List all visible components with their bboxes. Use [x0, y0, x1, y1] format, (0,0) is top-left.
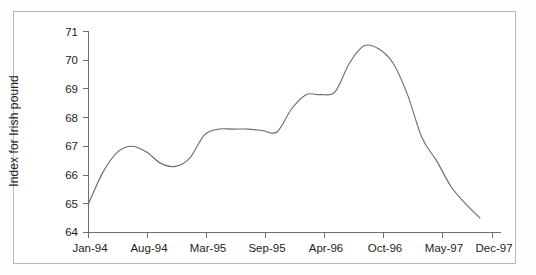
y-tick-label-71: 71: [65, 26, 78, 38]
x-tick-label-mar95: Mar-95: [190, 242, 226, 254]
x-tick-label-oct96: Oct-96: [368, 242, 403, 254]
y-tick-label-70: 70: [65, 54, 78, 66]
x-tick-label-apr96: Apr-96: [309, 242, 344, 254]
x-axis-tick-labels: Jan-94 Aug-94 Mar-95 Sep-95 Apr-96 Oct-9…: [72, 242, 512, 254]
y-tick-label-67: 67: [65, 140, 78, 152]
x-tick-label-dec97: Dec-97: [475, 242, 512, 254]
y-axis-ticks: [83, 32, 88, 233]
data-series-line: [89, 45, 481, 218]
y-tick-label-68: 68: [65, 112, 78, 124]
y-tick-label-66: 66: [65, 169, 78, 181]
y-tick-label-69: 69: [65, 83, 78, 95]
x-tick-label-aug94: Aug-94: [130, 242, 168, 254]
x-tick-label-may97: May-97: [425, 242, 463, 254]
line-chart-plot: 71 70 69 68 67 66 65 64 Jan-94 Aug-94 Ma…: [0, 0, 536, 275]
y-tick-label-65: 65: [65, 198, 78, 210]
chart-figure: Index for Irish pound 71 70 69 68 67 66 …: [0, 0, 536, 275]
y-axis-tick-labels: 71 70 69 68 67 66 65 64: [65, 26, 78, 239]
y-tick-label-64: 64: [65, 226, 78, 238]
x-tick-label-sep95: Sep-95: [248, 242, 285, 254]
x-tick-label-jan94: Jan-94: [72, 242, 108, 254]
